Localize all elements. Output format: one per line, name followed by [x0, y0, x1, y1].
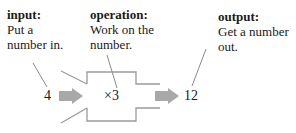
- funnel-top-line: [61, 71, 87, 84]
- input-leader-line: [33, 63, 47, 87]
- input-label-heading: input:: [7, 7, 63, 22]
- operation-label-line1: Work on the: [90, 22, 154, 37]
- output-label-line2: out.: [218, 39, 289, 54]
- input-label: input: Put a number in.: [7, 7, 63, 52]
- output-label-heading: output:: [218, 9, 289, 24]
- input-label-line1: Put a: [7, 22, 63, 37]
- output-label-line1: Get a number: [218, 24, 289, 39]
- input-label-line2: number in.: [7, 37, 63, 52]
- machine-outline-bottom: [87, 108, 160, 121]
- output-value: 12: [184, 88, 198, 104]
- operation-value: ×3: [104, 88, 119, 104]
- input-value: 4: [44, 88, 51, 104]
- operation-label-line2: number.: [90, 37, 154, 52]
- output-leader-line: [192, 49, 206, 86]
- funnel-bottom-line: [61, 108, 87, 123]
- machine-outline-top: [87, 72, 160, 84]
- input-arrow-tip-icon: [72, 88, 83, 104]
- output-label: output: Get a number out.: [218, 9, 289, 54]
- output-arrow-tip-icon: [168, 88, 179, 104]
- operation-label: operation: Work on the number.: [90, 7, 154, 52]
- operation-label-heading: operation:: [90, 7, 154, 22]
